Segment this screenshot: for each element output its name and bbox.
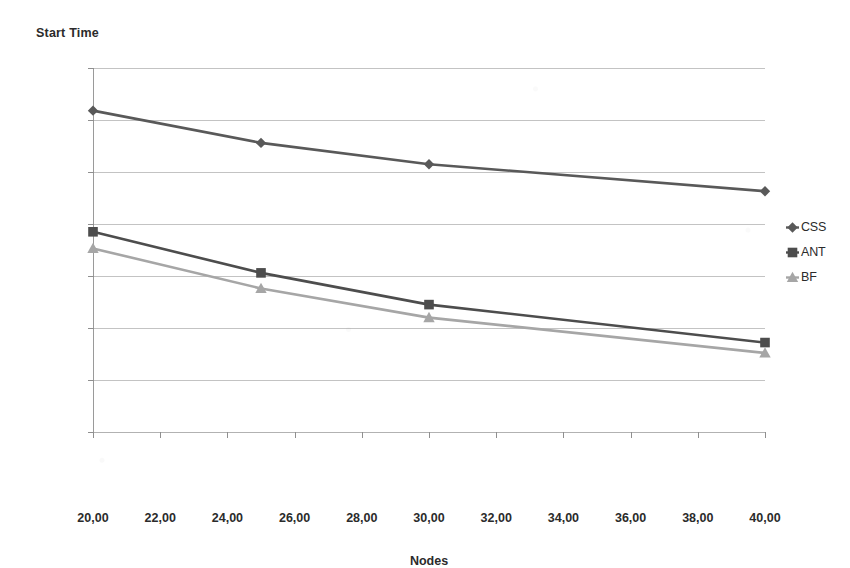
legend-label: ANT [801,245,825,259]
square-marker-icon [788,247,798,257]
x-tick-mark [160,432,161,438]
x-tick-label: 40,00 [733,511,797,525]
x-tick-label: 22,00 [128,511,192,525]
x-tick-mark [765,432,766,438]
chart-title: Start Time [36,26,99,40]
diamond-marker-icon [787,222,797,232]
x-tick-label: 32,00 [464,511,528,525]
x-tick-label: 26,00 [263,511,327,525]
square-marker-icon [88,227,98,237]
legend-label: CSS [801,220,826,234]
diamond-marker-icon [424,159,434,169]
legend-item-css[interactable]: CSS [786,220,826,234]
x-tick-mark [698,432,699,438]
legend-item-bf[interactable]: BF [786,270,826,284]
triangle-marker-icon [87,243,98,253]
series-line-ant [93,232,765,343]
x-tick-label: 24,00 [195,511,259,525]
x-tick-label: 34,00 [531,511,595,525]
square-marker-icon [424,300,434,310]
x-tick-mark [93,432,94,438]
square-marker-icon [786,246,799,259]
x-tick-label: 28,00 [330,511,394,525]
x-tick-mark [429,432,430,438]
x-tick-mark [496,432,497,438]
series-line-css [93,111,765,192]
diamond-marker-icon [760,186,770,196]
x-tick-mark [563,432,564,438]
x-tick-mark [295,432,296,438]
chart-legend: CSSANTBF [786,220,826,284]
series-lines [93,68,765,432]
diamond-marker-icon [88,105,98,115]
square-marker-icon [760,338,770,348]
x-tick-mark [362,432,363,438]
triangle-marker-icon [786,271,799,284]
plot-area: 0,00100,00200,00300,00400,00500,00600,00… [93,68,765,432]
diamond-marker-icon [256,138,266,148]
x-tick-mark [227,432,228,438]
x-tick-mark [631,432,632,438]
diamond-marker-icon [786,221,799,234]
x-axis-title: Nodes [93,554,765,568]
legend-label: BF [801,270,817,284]
legend-item-ant[interactable]: ANT [786,245,826,259]
x-tick-label: 38,00 [666,511,730,525]
x-tick-label: 36,00 [599,511,663,525]
square-marker-icon [256,268,266,278]
x-tick-label: 30,00 [397,511,461,525]
x-tick-label: 20,00 [61,511,125,525]
